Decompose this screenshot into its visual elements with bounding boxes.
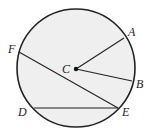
point-label-f: F [7, 42, 16, 56]
point-label-c: C [62, 62, 71, 76]
center-point [74, 67, 78, 71]
point-label-a: A [127, 25, 136, 39]
point-label-d: D [17, 105, 27, 119]
point-label-e: E [121, 105, 130, 119]
circle-diagram: CABDEF [0, 0, 150, 134]
point-label-b: B [136, 77, 144, 91]
